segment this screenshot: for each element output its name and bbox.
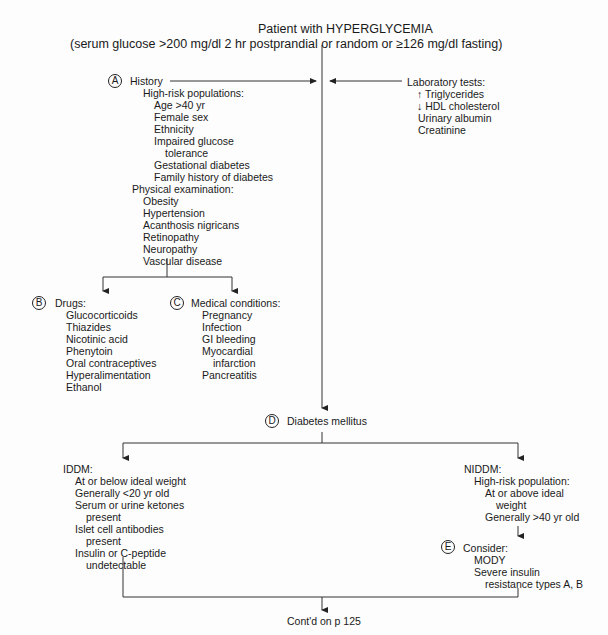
- marker-a: A: [108, 74, 122, 88]
- high-risk-item: Ethnicity: [154, 123, 194, 135]
- medical-conditions-heading: Medical conditions:: [191, 297, 280, 309]
- consider-item: resistance types A, B: [485, 578, 583, 590]
- drug-item: Phenytoin: [66, 345, 113, 357]
- high-risk-item: Gestational diabetes: [154, 159, 250, 171]
- high-risk-heading: High-risk populations:: [143, 87, 244, 99]
- consider-item: Severe insulin: [474, 566, 540, 578]
- consider-heading: Consider:: [463, 542, 508, 554]
- iddm-item: Insulin or C-peptide: [75, 547, 166, 559]
- marker-e: E: [441, 540, 455, 554]
- iddm-item: undetectable: [86, 559, 146, 571]
- iddm-item: Serum or urine ketones: [75, 499, 184, 511]
- condition-item: infarction: [213, 357, 256, 369]
- niddm-heading: NIDDM:: [464, 463, 501, 475]
- condition-item: Pregnancy: [202, 309, 252, 321]
- high-risk-item: Family history of diabetes: [154, 171, 273, 183]
- condition-item: Pancreatitis: [202, 369, 257, 381]
- drug-item: Oral contraceptives: [66, 357, 156, 369]
- physical-item: Obesity: [143, 195, 179, 207]
- flowchart-canvas: Patient with HYPERGLYCEMIA (serum glucos…: [0, 0, 608, 635]
- condition-item: Infection: [202, 321, 242, 333]
- physical-item: Hypertension: [143, 207, 205, 219]
- lab-test-item: Urinary albumin: [418, 112, 492, 124]
- physical-item: Vascular disease: [143, 255, 222, 267]
- iddm-item: present: [86, 535, 121, 547]
- physical-item: Acanthosis nigricans: [143, 219, 239, 231]
- lab-test-item: Creatinine: [418, 124, 466, 136]
- lab-tests-heading: Laboratory tests:: [407, 76, 485, 88]
- high-risk-item: Female sex: [154, 111, 208, 123]
- physical-item: Neuropathy: [143, 243, 197, 255]
- drug-item: Glucocorticoids: [66, 309, 138, 321]
- physical-heading: Physical examination:: [132, 183, 234, 195]
- niddm-item: weight: [496, 499, 526, 511]
- iddm-item: present: [86, 511, 121, 523]
- consider-item: MODY: [474, 554, 506, 566]
- marker-c: C: [170, 296, 184, 310]
- diabetes-mellitus-label: Diabetes mellitus: [287, 415, 367, 427]
- drug-item: Thiazides: [66, 321, 111, 333]
- marker-b: B: [32, 296, 46, 310]
- niddm-item: Generally >40 yr old: [485, 511, 579, 523]
- niddm-subheading: High-risk population:: [474, 475, 570, 487]
- drug-item: Ethanol: [66, 381, 102, 393]
- high-risk-item: Impaired glucose: [154, 135, 234, 147]
- high-risk-item: Age >40 yr: [154, 99, 205, 111]
- lab-test-item: ↑ Triglycerides: [417, 88, 484, 100]
- condition-item: GI bleeding: [202, 333, 256, 345]
- iddm-heading: IDDM:: [63, 463, 93, 475]
- drug-item: Hyperalimentation: [66, 369, 151, 381]
- physical-item: Retinopathy: [143, 231, 199, 243]
- drugs-heading: Drugs:: [55, 297, 86, 309]
- title-line1: Patient with HYPERGLYCEMIA: [258, 22, 433, 36]
- iddm-item: Islet cell antibodies: [75, 523, 164, 535]
- title-line2: (serum glucose >200 mg/dl 2 hr postprand…: [70, 37, 502, 51]
- history-heading: History: [130, 75, 163, 87]
- iddm-item: Generally <20 yr old: [75, 487, 169, 499]
- lab-test-item: ↓ HDL cholesterol: [417, 100, 499, 112]
- marker-d: D: [265, 414, 279, 428]
- continued-label: Cont'd on p 125: [287, 615, 361, 627]
- high-risk-item: tolerance: [165, 147, 208, 159]
- drug-item: Nicotinic acid: [66, 333, 128, 345]
- condition-item: Myocardial: [202, 345, 253, 357]
- niddm-item: At or above ideal: [485, 487, 564, 499]
- iddm-item: At or below ideal weight: [75, 475, 186, 487]
